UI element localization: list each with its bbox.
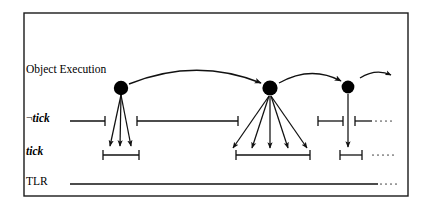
execution-node-1[interactable] — [114, 81, 128, 95]
timeline-diagram-svg — [0, 0, 431, 210]
figure-frame — [24, 13, 408, 196]
label-not-tick-word: tick — [33, 112, 50, 124]
execution-node-2[interactable] — [262, 80, 277, 95]
execution-node-3[interactable] — [342, 81, 355, 94]
label-tlr: TLR — [26, 176, 48, 188]
label-tick-word: tick — [26, 145, 43, 157]
label-object-execution: Object Execution — [26, 64, 106, 76]
label-tick: tick — [26, 146, 43, 158]
figure-canvas: Object Execution ¬tick tick TLR — [0, 0, 431, 210]
label-not-tick: ¬tick — [26, 113, 50, 125]
